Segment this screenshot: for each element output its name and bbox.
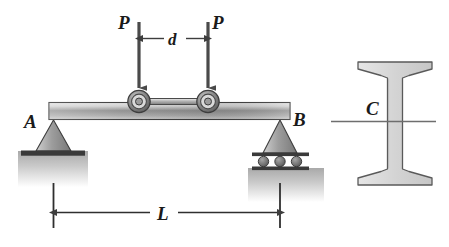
roller-ball: [275, 156, 285, 166]
wheel-left: [128, 90, 150, 112]
label-support-b: B: [292, 109, 306, 130]
engineering-figure: A B P P d L C: [0, 0, 449, 247]
label-support-a: A: [23, 111, 37, 132]
label-dimension-l: L: [156, 203, 169, 224]
roller-triangle-b: [263, 120, 297, 153]
beam-highlight: [49, 103, 290, 120]
wheel-hub: [136, 98, 143, 105]
pin-triangle-a: [36, 120, 71, 151]
roller-ball: [291, 156, 301, 166]
roller-bottom-plate: [252, 167, 309, 171]
beam: [49, 103, 290, 120]
label-load-right: P: [211, 12, 224, 33]
base-plate-a: [21, 151, 85, 156]
label-load-left: P: [117, 12, 130, 33]
wheel-right: [197, 90, 219, 112]
label-dimension-d: d: [168, 30, 177, 49]
ground-patch-a: [18, 151, 88, 187]
wheel-hub: [205, 98, 212, 105]
figure-canvas: A B P P d L C: [0, 0, 449, 247]
cross-section: [331, 62, 436, 185]
roller-top-plate: [252, 153, 309, 157]
ground-patch-b: [248, 168, 324, 202]
label-centroid-c: C: [366, 98, 379, 119]
roller-ball: [258, 156, 268, 166]
i-beam-outline: [358, 62, 432, 185]
